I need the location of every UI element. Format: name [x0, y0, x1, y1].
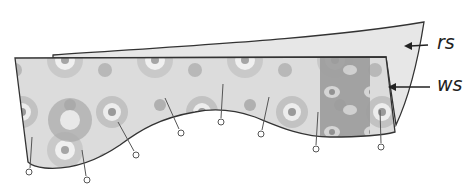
front-fabric-piece-ws [15, 55, 395, 168]
label-ws: ws [437, 75, 462, 94]
label-rs: rs [437, 33, 455, 52]
diagram-canvas [0, 0, 468, 190]
valance-diagram: rs ws [0, 0, 468, 190]
